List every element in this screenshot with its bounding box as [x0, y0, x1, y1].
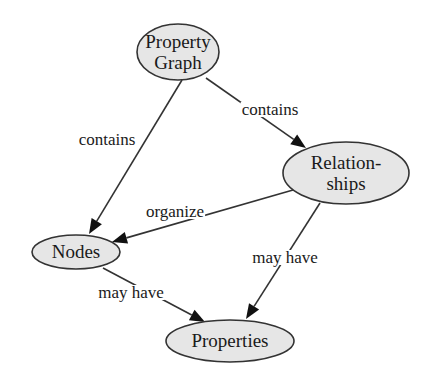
- arrowhead-icon: [290, 134, 306, 148]
- concept-map-diagram: containscontainsorganizemay havemay have…: [0, 0, 428, 380]
- edge-label: contains: [79, 130, 136, 149]
- node-properties: Properties: [166, 320, 294, 362]
- node-label: Property: [145, 31, 211, 52]
- arrowhead-icon: [189, 310, 205, 322]
- edge-relationships-to-nodes: organize: [112, 190, 293, 244]
- edge-label: contains: [242, 100, 299, 119]
- arrowhead-icon: [112, 232, 128, 244]
- node-label: Graph: [154, 52, 202, 73]
- edge-label: organize: [146, 202, 204, 221]
- node-relationships: Relation-ships: [283, 142, 409, 204]
- edge-nodes-to-properties: may have: [97, 268, 205, 322]
- edge-relationships-to-properties: may have: [246, 203, 320, 319]
- node-label: Nodes: [52, 241, 101, 262]
- node-property-graph: PropertyGraph: [137, 24, 219, 80]
- edge-property-graph-to-relationships: contains: [206, 78, 306, 148]
- node-label: Relation-: [311, 152, 382, 173]
- arrowhead-icon: [89, 218, 102, 234]
- edge-line: [97, 80, 182, 221]
- node-nodes: Nodes: [32, 235, 120, 269]
- edge-label: may have: [252, 248, 318, 267]
- arrowhead-icon: [246, 303, 259, 319]
- edge-label: may have: [98, 283, 164, 302]
- node-label: ships: [326, 173, 365, 194]
- node-label: Properties: [191, 330, 268, 351]
